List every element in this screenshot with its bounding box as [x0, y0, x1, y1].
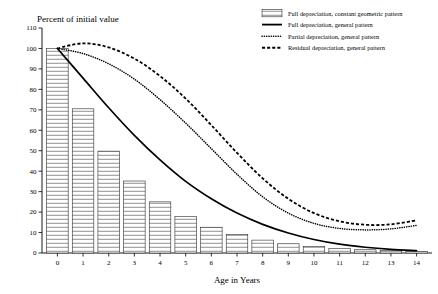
x-tick-label: 6 — [210, 259, 214, 267]
y-tick-label: 100 — [26, 45, 37, 53]
bar-series-full-depreciation-constant-geometric — [47, 48, 428, 253]
legend-item-label: Full depreciation, general pattern — [288, 21, 374, 28]
chart-legend: Full depreciation, constant geometric pa… — [262, 9, 403, 51]
y-axis-title: Percent of initial value — [37, 14, 119, 24]
bar — [329, 248, 351, 253]
x-tick-label: 8 — [261, 259, 265, 267]
bar — [175, 217, 197, 253]
x-tick-label: 4 — [158, 259, 162, 267]
bar — [124, 181, 146, 253]
bar — [226, 235, 248, 253]
y-tick-label: 50 — [30, 147, 38, 155]
bar — [406, 251, 428, 253]
bar — [47, 48, 69, 253]
y-tick-label: 20 — [30, 208, 38, 216]
legend-item-label: Partial depreciation, general pattern — [288, 33, 380, 40]
bar — [252, 240, 274, 253]
y-tick-label: 80 — [30, 86, 38, 94]
y-axis-ticks: 1101009080706050403020100 — [26, 24, 42, 257]
bar — [72, 109, 94, 253]
y-tick-label: 60 — [30, 127, 38, 135]
y-tick-label: 10 — [30, 229, 38, 237]
depreciation-chart: Percent of initial value 110100908070605… — [0, 0, 438, 294]
x-tick-label: 0 — [56, 259, 60, 267]
x-tick-label: 7 — [235, 259, 239, 267]
legend-swatch-hatched-box — [262, 9, 282, 16]
x-tick-label: 13 — [387, 259, 395, 267]
y-tick-label: 40 — [30, 168, 38, 176]
bar — [201, 227, 223, 253]
bar — [98, 151, 120, 253]
x-tick-label: 5 — [184, 259, 188, 267]
legend-item-label: Residual depreciation, general pattern — [288, 44, 386, 51]
y-tick-label: 90 — [30, 65, 38, 73]
chart-canvas: Percent of initial value 110100908070605… — [0, 0, 438, 294]
bar — [355, 250, 377, 253]
x-tick-label: 9 — [287, 259, 291, 267]
y-tick-label: 110 — [26, 24, 37, 32]
x-tick-label: 11 — [336, 259, 343, 267]
y-axis-title-label: Percent of initial value — [37, 14, 119, 24]
y-tick-label: 70 — [30, 106, 38, 114]
x-axis-title-label: Age in Years — [214, 275, 261, 285]
x-tick-label: 14 — [413, 259, 421, 267]
bar — [278, 244, 300, 253]
y-tick-label: 0 — [33, 249, 37, 257]
bar — [149, 202, 171, 253]
bar — [380, 251, 402, 253]
x-tick-label: 10 — [310, 259, 318, 267]
legend-item-label: Full depreciation, constant geometric pa… — [288, 10, 403, 17]
x-axis-ticks: 01234567891011121314 — [56, 253, 421, 267]
bar — [303, 246, 325, 253]
x-tick-label: 12 — [362, 259, 370, 267]
x-axis-title: Age in Years — [214, 275, 261, 285]
x-tick-label: 1 — [81, 259, 85, 267]
x-tick-label: 2 — [107, 259, 111, 267]
x-tick-label: 3 — [133, 259, 137, 267]
y-tick-label: 30 — [30, 188, 38, 196]
